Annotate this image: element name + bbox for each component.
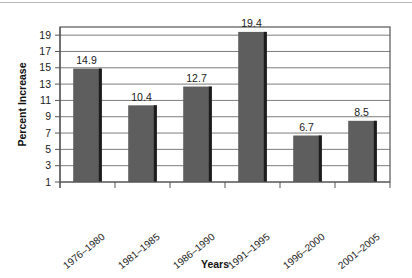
bar-value-label: 19.4 <box>241 17 262 29</box>
bar <box>293 136 322 183</box>
bar <box>128 105 157 182</box>
x-tick-label: 1976–1980 <box>61 231 107 271</box>
x-tick-label: 1981–1985 <box>116 231 162 271</box>
x-tick-label: 2001–2005 <box>336 231 382 271</box>
y-tick-label: 11 <box>40 94 51 106</box>
bar <box>183 87 212 182</box>
bar-edge <box>99 69 102 182</box>
bar-edge <box>319 136 322 183</box>
y-tick-label: 17 <box>39 45 51 57</box>
x-axis-title: Years <box>201 258 229 270</box>
bar <box>348 121 377 182</box>
y-axis-ticks <box>55 35 60 182</box>
x-axis-ticks <box>60 182 390 188</box>
bar-value-label: 8.5 <box>354 106 369 118</box>
bar-edge <box>154 105 157 182</box>
y-tick-labels: 135791113151719 <box>39 29 51 188</box>
bar-chart: 135791113151719 14.910.412.719.46.78.5 1… <box>0 0 412 278</box>
bar <box>238 32 267 182</box>
bar-value-label: 6.7 <box>299 121 314 133</box>
x-tick-label: 1991–1995 <box>226 231 272 271</box>
y-axis-title: Percent Increase <box>16 62 28 146</box>
bar-value-label: 12.7 <box>186 72 207 84</box>
bar <box>73 69 102 182</box>
bar-value-label: 10.4 <box>131 91 152 103</box>
y-tick-label: 13 <box>39 78 51 90</box>
y-tick-label: 1 <box>45 176 51 188</box>
y-tick-label: 19 <box>39 29 51 41</box>
y-tick-label: 3 <box>45 159 51 171</box>
y-tick-label: 15 <box>39 61 51 73</box>
x-tick-label: 1996–2000 <box>281 231 327 271</box>
y-tick-label: 7 <box>45 127 51 139</box>
plot-background <box>60 27 390 182</box>
chart-canvas: 135791113151719 14.910.412.719.46.78.5 1… <box>0 0 412 278</box>
bar-edge <box>209 87 212 182</box>
bar-edge <box>374 121 377 182</box>
y-tick-label: 5 <box>45 143 51 155</box>
bar-value-label: 14.9 <box>76 54 97 66</box>
bar-edge <box>264 32 267 182</box>
y-tick-label: 9 <box>45 110 51 122</box>
